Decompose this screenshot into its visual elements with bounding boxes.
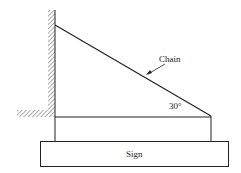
sign-support-diagram: Chain 30° Sign (0, 0, 241, 173)
chain-label: Chain (159, 54, 181, 64)
chain-arrow-icon (146, 64, 165, 75)
ledge (17, 110, 55, 117)
ledge-hatch (17, 110, 55, 117)
wall (48, 10, 55, 141)
wall-hatch (48, 10, 55, 110)
chain (55, 25, 211, 116)
sign-label: Sign (126, 149, 143, 159)
angle-label: 30° (169, 101, 182, 111)
